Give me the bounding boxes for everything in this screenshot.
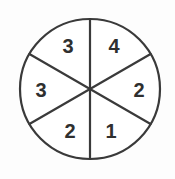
sector-label-right: 2	[133, 79, 144, 101]
sector-label-top-left: 3	[62, 35, 73, 57]
sector-label-top-right: 4	[108, 35, 120, 57]
sector-label-bottom-left: 2	[64, 120, 75, 142]
spinner-figure: 3 4 3 2 2 1	[0, 0, 175, 179]
sector-label-bottom-right: 1	[105, 120, 116, 142]
sector-label-left: 3	[35, 79, 46, 101]
spinner-wheel-svg: 3 4 3 2 2 1	[0, 0, 175, 179]
